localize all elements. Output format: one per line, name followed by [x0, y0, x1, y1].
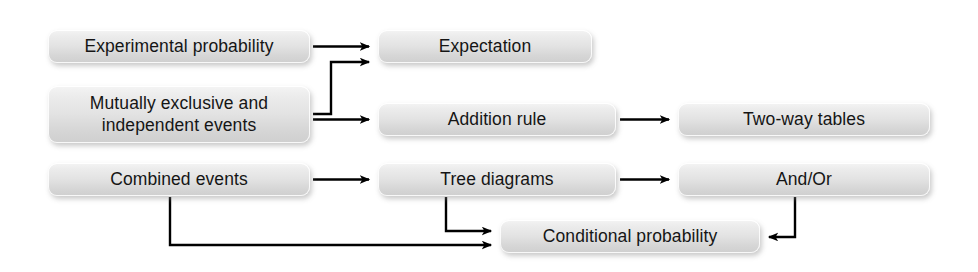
node-mutually-exclusive-independent-events[interactable]: Mutually exclusive and independent event…	[48, 86, 310, 143]
node-label: Experimental probability	[56, 36, 302, 57]
edge-and-or-to-conditional	[769, 197, 795, 237]
edge-combined-to-conditional	[170, 197, 491, 245]
node-label: Mutually exclusive and independent event…	[56, 93, 302, 136]
node-label: Addition rule	[386, 109, 608, 130]
node-label-line-1: Mutually exclusive and	[90, 93, 268, 113]
node-label: Combined events	[56, 169, 302, 190]
edge-mutually-to-expectation	[313, 62, 369, 114]
node-expectation[interactable]: Expectation	[378, 30, 592, 63]
node-tree-diagrams[interactable]: Tree diagrams	[378, 163, 616, 196]
node-experimental-probability[interactable]: Experimental probability	[48, 30, 310, 63]
node-combined-events[interactable]: Combined events	[48, 163, 310, 196]
node-label: And/Or	[686, 169, 922, 190]
node-label: Two-way tables	[686, 109, 922, 130]
node-label: Expectation	[386, 36, 584, 57]
flowchart-canvas: Experimental probability Expectation Mut…	[0, 0, 978, 272]
node-label: Conditional probability	[508, 226, 752, 247]
node-addition-rule[interactable]: Addition rule	[378, 103, 616, 136]
node-label: Tree diagrams	[386, 169, 608, 190]
edge-tree-diagrams-to-conditional	[446, 197, 491, 231]
node-two-way-tables[interactable]: Two-way tables	[678, 103, 930, 136]
node-and-or[interactable]: And/Or	[678, 163, 930, 196]
node-label-line-2: independent events	[56, 115, 302, 136]
node-conditional-probability[interactable]: Conditional probability	[500, 220, 760, 253]
